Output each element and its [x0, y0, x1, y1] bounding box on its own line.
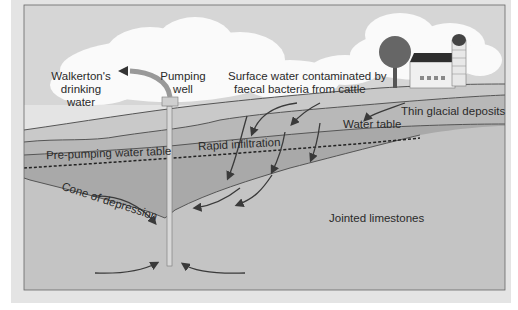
label-line: well: [153, 83, 213, 96]
label-line: Surface water contaminated by: [228, 70, 387, 83]
label-line: Pumping: [153, 70, 213, 83]
label-pumping-well: Pumping well: [153, 70, 213, 96]
label-drinking-water: Walkerton's drinking water: [46, 70, 116, 109]
label-line: faecal bacteria from cattle: [228, 83, 387, 96]
label-line: Walkerton's: [46, 70, 116, 83]
barn-icon: [410, 53, 455, 88]
silo-icon: [452, 34, 466, 86]
label-water-table: Water table: [343, 118, 401, 131]
label-line: water: [46, 96, 116, 109]
label-surface-water: Surface water contaminated by faecal bac…: [228, 70, 387, 96]
label-line: drinking: [46, 83, 116, 96]
label-thin-glacial-deposits: Thin glacial deposits: [401, 105, 505, 118]
label-jointed-limestones: Jointed limestones: [329, 212, 424, 225]
